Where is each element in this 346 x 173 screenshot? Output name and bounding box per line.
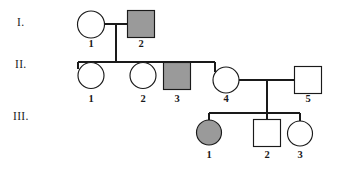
individual-II-5-number: 5	[305, 93, 310, 104]
generation-label-2: II.	[15, 58, 26, 70]
individual-I-2-male-affected[interactable]	[128, 11, 155, 38]
individual-III-3-female-unaffected[interactable]	[288, 121, 313, 146]
individual-II-3-number: 3	[174, 93, 179, 104]
individual-II-3-male-affected[interactable]	[164, 63, 191, 90]
generation-label-1: I.	[17, 16, 24, 28]
individual-I-1-female-unaffected[interactable]	[78, 11, 105, 38]
pedigree-chart-figure: I. II. III. 1 2 1	[0, 0, 346, 173]
individual-II-1-number: 1	[88, 93, 93, 104]
generation-2-symbols: 1 2 3 4 5	[78, 63, 322, 105]
individual-II-4-number: 4	[223, 93, 229, 104]
individual-II-2-female-unaffected[interactable]	[130, 63, 156, 89]
pedigree-canvas: I. II. III. 1 2 1	[0, 0, 346, 173]
generation-3-symbols: 1 2 3	[197, 120, 313, 161]
individual-III-1-number: 1	[206, 149, 211, 160]
generation-labels-group: I. II. III.	[13, 16, 29, 122]
individual-III-2-number: 2	[264, 149, 269, 160]
individual-II-4-female-unaffected[interactable]	[213, 67, 239, 93]
individual-I-1-number: 1	[88, 38, 93, 49]
individual-III-1-female-affected[interactable]	[197, 120, 222, 145]
individual-II-2-number: 2	[140, 93, 145, 104]
individual-II-1-female-unaffected[interactable]	[78, 63, 104, 89]
generation-label-3: III.	[13, 110, 29, 122]
individual-I-2-number: 2	[138, 38, 143, 49]
individual-III-3-number: 3	[297, 149, 302, 160]
individual-II-5-male-unaffected[interactable]	[295, 67, 322, 94]
individual-III-2-male-unaffected[interactable]	[254, 120, 281, 147]
